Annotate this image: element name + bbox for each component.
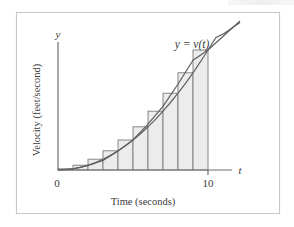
figure-root: y t 0 10 Time (seconds) Velocity (feet/s… bbox=[0, 0, 294, 227]
x-axis-symbol: t bbox=[238, 164, 242, 176]
x-tick-label-10: 10 bbox=[203, 177, 215, 189]
y-axis-label: Velocity (feet/second) bbox=[31, 63, 43, 156]
table-row bbox=[118, 140, 133, 170]
x-tick-label-0: 0 bbox=[54, 177, 60, 189]
table-row bbox=[103, 151, 118, 170]
plot-canvas: y t 0 10 Time (seconds) Velocity (feet/s… bbox=[0, 0, 294, 227]
table-row bbox=[193, 50, 208, 170]
riemann-rectangles bbox=[58, 50, 208, 170]
table-row bbox=[178, 73, 193, 170]
table-row bbox=[163, 93, 178, 170]
x-axis-label: Time (seconds) bbox=[111, 196, 176, 208]
curve-label: y = v(t) bbox=[174, 38, 210, 51]
y-axis-symbol: y bbox=[55, 28, 61, 40]
